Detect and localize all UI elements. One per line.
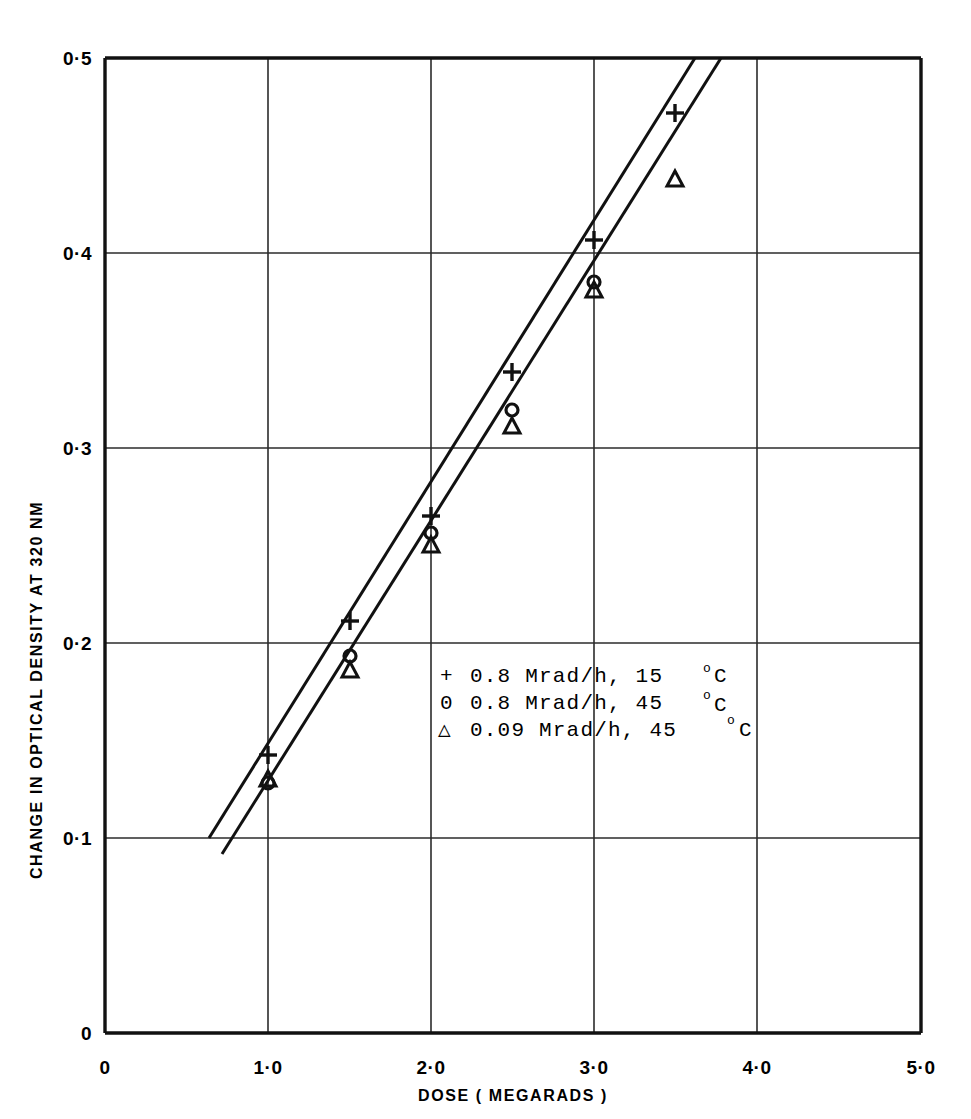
legend-unit-1: C [714, 665, 728, 688]
y-axis-title: CHANGE IN OPTICAL DENSITY AT 320 NM [28, 501, 45, 879]
legend-degree-1: o [703, 661, 711, 676]
y-tick-label-0.1: 0·1 [63, 828, 92, 849]
y-tick-label-0.3: 0·3 [63, 438, 92, 459]
x-tick-label-2.0: 2·0 [417, 1057, 446, 1078]
legend-label-1: 0.8 Mrad/h, 15 [470, 665, 663, 688]
x-axis-title: DOSE ( MEGARADS ) [418, 1087, 608, 1104]
legend-unit-2: C [714, 694, 728, 717]
legend-degree-3: o [727, 713, 735, 728]
legend-label-3: 0.09 Mrad/h, 45 [470, 719, 677, 742]
x-tick-label-1.0: 1·0 [254, 1057, 283, 1078]
x-tick-label-3.0: 3·0 [580, 1057, 609, 1078]
legend-unit-3: C [739, 719, 753, 742]
y-tick-label-0.2: 0·2 [63, 633, 92, 654]
x-tick-label-0: 0 [99, 1057, 110, 1078]
legend-degree-2: o [703, 688, 711, 703]
y-tick-label-0.4: 0·4 [63, 243, 92, 264]
chart-figure: 0·5 0·4 0·3 0·2 0·1 0 0 1·0 2·0 3·0 4·0 … [0, 0, 971, 1119]
legend-marker-circle: 0 [440, 692, 454, 715]
legend-marker-triangle: △ [438, 719, 452, 742]
legend-marker-plus: + [440, 665, 454, 688]
legend-label-2: 0.8 Mrad/h, 45 [470, 692, 663, 715]
figure-background [0, 0, 971, 1119]
x-tick-label-5.0: 5·0 [907, 1057, 936, 1078]
y-tick-label-0: 0 [81, 1023, 92, 1044]
y-tick-label-0.5: 0·5 [63, 48, 92, 69]
x-tick-label-4.0: 4·0 [743, 1057, 772, 1078]
